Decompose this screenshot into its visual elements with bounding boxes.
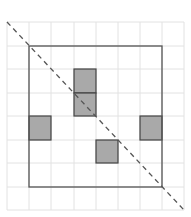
shaded-cell bbox=[74, 69, 96, 93]
shaded-cell bbox=[96, 140, 118, 163]
shaded-cell bbox=[140, 116, 162, 140]
symmetry-grid-diagram bbox=[0, 0, 191, 217]
shaded-cell bbox=[29, 116, 51, 140]
